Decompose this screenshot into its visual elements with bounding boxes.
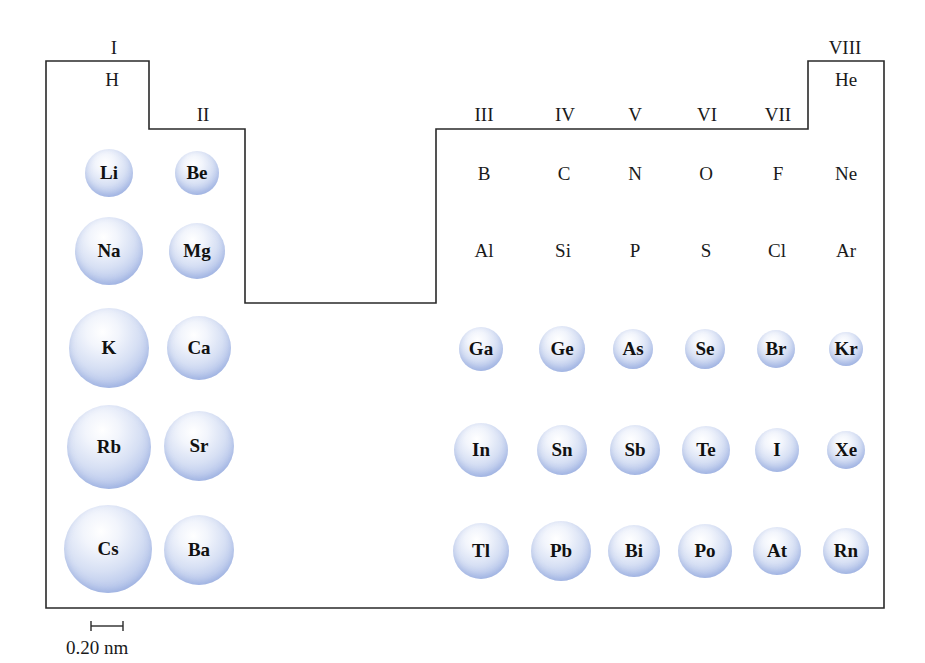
atom-sphere: At bbox=[753, 527, 801, 575]
element-symbol: H bbox=[105, 70, 119, 89]
atom-symbol: Sn bbox=[551, 439, 572, 461]
atom-sphere: Ba bbox=[164, 515, 234, 585]
atom-symbol: Sb bbox=[624, 439, 645, 461]
element-symbol: Cl bbox=[768, 241, 786, 260]
group-label: III bbox=[475, 105, 494, 124]
element-symbol: C bbox=[558, 164, 571, 183]
atom-sphere: Xe bbox=[827, 431, 865, 469]
atom-symbol: Be bbox=[186, 162, 207, 184]
group-label: V bbox=[628, 105, 642, 124]
atom-sphere: Sr bbox=[164, 411, 234, 481]
atom-symbol: Ge bbox=[550, 338, 573, 360]
atom-sphere: K bbox=[69, 308, 149, 388]
atom-sphere: Rn bbox=[823, 528, 869, 574]
element-symbol: N bbox=[628, 164, 642, 183]
atom-sphere: As bbox=[613, 329, 653, 369]
atom-sphere: Bi bbox=[608, 525, 660, 577]
group-label: IV bbox=[555, 105, 575, 124]
atom-sphere: Li bbox=[85, 149, 133, 197]
atom-sphere: Cs bbox=[64, 505, 152, 593]
atom-sphere: Br bbox=[757, 330, 795, 368]
atom-sphere: Po bbox=[678, 524, 732, 578]
atom-symbol: Sr bbox=[190, 435, 209, 457]
atom-sphere: In bbox=[454, 423, 508, 477]
element-symbol: Ar bbox=[836, 241, 856, 260]
atom-sphere: Ge bbox=[539, 326, 585, 372]
group-label: VII bbox=[765, 105, 791, 124]
atom-sphere: Ga bbox=[459, 327, 503, 371]
element-symbol: Ne bbox=[835, 164, 857, 183]
atom-sphere: Tl bbox=[453, 523, 509, 579]
atom-symbol: Cs bbox=[97, 538, 118, 560]
atom-sphere: Mg bbox=[169, 223, 225, 279]
atom-symbol: Li bbox=[100, 162, 118, 184]
atom-sphere: Sb bbox=[610, 425, 660, 475]
atom-symbol: As bbox=[622, 338, 643, 360]
atom-sphere: Na bbox=[75, 217, 143, 285]
element-symbol: O bbox=[699, 164, 713, 183]
atom-symbol: Bi bbox=[625, 540, 643, 562]
atom-sphere: Kr bbox=[829, 332, 863, 366]
atom-sphere: Te bbox=[682, 426, 730, 474]
periodic-radii-figure: IIIIIIIVVVIVIIVIII HHeBCNOFNeAlSiPSClAr … bbox=[0, 0, 925, 663]
element-symbol: F bbox=[773, 164, 784, 183]
atom-symbol: Pb bbox=[550, 540, 572, 562]
group-label: VI bbox=[697, 105, 717, 124]
atom-symbol: Te bbox=[696, 439, 715, 461]
element-symbol: Si bbox=[555, 241, 571, 260]
atom-symbol: Rn bbox=[834, 540, 858, 562]
element-symbol: B bbox=[478, 164, 491, 183]
atom-symbol: K bbox=[102, 337, 117, 359]
atom-sphere: Be bbox=[175, 151, 219, 195]
atom-symbol: Xe bbox=[835, 439, 857, 461]
atom-symbol: Tl bbox=[472, 540, 490, 562]
atom-symbol: Po bbox=[694, 540, 715, 562]
atom-symbol: Ga bbox=[469, 338, 493, 360]
atom-symbol: Rb bbox=[97, 436, 121, 458]
group-label: VIII bbox=[829, 38, 862, 57]
element-symbol: P bbox=[630, 241, 641, 260]
element-symbol: S bbox=[701, 241, 712, 260]
atom-symbol: At bbox=[767, 540, 787, 562]
atom-symbol: Se bbox=[696, 338, 715, 360]
atom-sphere: Pb bbox=[531, 521, 591, 581]
atom-symbol: In bbox=[472, 439, 490, 461]
atom-symbol: Kr bbox=[834, 338, 857, 360]
atom-sphere: Rb bbox=[67, 405, 151, 489]
scale-bar-icon bbox=[90, 620, 124, 632]
element-symbol: Al bbox=[475, 241, 494, 260]
scale-label: 0.20 nm bbox=[66, 637, 128, 659]
atom-sphere: Sn bbox=[537, 425, 587, 475]
group-label: II bbox=[197, 105, 210, 124]
atom-sphere: Ca bbox=[167, 316, 231, 380]
atom-symbol: Na bbox=[97, 240, 120, 262]
atom-symbol: Br bbox=[765, 338, 786, 360]
element-symbol: He bbox=[835, 70, 857, 89]
atom-symbol: Ca bbox=[187, 337, 210, 359]
atom-symbol: Ba bbox=[188, 539, 210, 561]
group-label: I bbox=[111, 38, 117, 57]
atom-sphere: I bbox=[755, 428, 799, 472]
atom-symbol: Mg bbox=[183, 240, 210, 262]
atom-symbol: I bbox=[773, 439, 780, 461]
atom-sphere: Se bbox=[685, 329, 725, 369]
